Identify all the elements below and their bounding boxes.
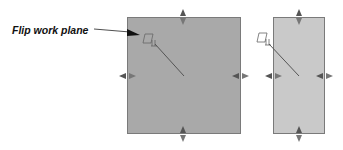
resize-handle-left[interactable] (119, 73, 136, 79)
resize-handle-left-flipped[interactable] (265, 73, 282, 79)
resize-handle-top[interactable] (180, 9, 186, 25)
diagram-overlay (0, 0, 343, 150)
resize-handle-right[interactable] (232, 73, 249, 79)
callout-arrow-icon (94, 29, 140, 36)
flip-work-plane-diagram: Flip work plane (0, 0, 343, 150)
resize-handle-bottom[interactable] (180, 126, 186, 142)
plane-normal-line-flipped (269, 44, 299, 76)
resize-handle-right-flipped[interactable] (316, 73, 333, 79)
resize-handle-bottom-flipped[interactable] (296, 126, 302, 142)
work-plane-flipped-icon (257, 33, 271, 45)
resize-handle-top-flipped[interactable] (296, 9, 302, 25)
plane-normal-line (155, 44, 184, 76)
